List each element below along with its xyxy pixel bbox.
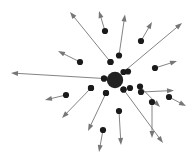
arrow-shaft-v01 — [73, 16, 110, 62]
vector-node-v08 — [138, 89, 144, 95]
arrow-shaft-v11 — [66, 88, 91, 114]
vector-node-v16 — [137, 83, 143, 89]
arrow-head-v14 — [118, 138, 123, 145]
vector-node-v03 — [116, 52, 122, 58]
vector-node-v10 — [63, 92, 69, 98]
arrow-head-v08 — [167, 88, 174, 93]
arrow-shaft-v12 — [90, 93, 106, 126]
vector-node-v05 — [138, 38, 144, 44]
vector-node-v18 — [149, 99, 155, 105]
vector-node-v17 — [166, 94, 172, 100]
hub-satellite-2 — [125, 68, 131, 74]
vector-node-v14 — [116, 108, 122, 114]
hub-layer — [107, 72, 123, 88]
arrow-head-v06 — [11, 71, 18, 76]
central-hub-node — [107, 72, 123, 88]
vector-node-v07 — [77, 59, 83, 65]
vector-node-v13 — [100, 127, 106, 133]
arrow-shaft-v03 — [119, 20, 124, 56]
arrow-head-v18 — [150, 131, 155, 138]
hub-satellite-0 — [101, 75, 107, 81]
arrow-head-v10 — [45, 96, 52, 101]
arrow-head-layer — [11, 11, 186, 152]
arrow-head-v12 — [88, 124, 93, 131]
hub-satellite-3 — [127, 85, 133, 91]
vector-node-v09 — [152, 65, 158, 71]
arrow-head-v13 — [98, 145, 103, 152]
arrow-shaft-v04 — [124, 27, 178, 72]
arrow-head-v17 — [179, 101, 186, 106]
arrow-head-v05 — [146, 22, 152, 29]
vector-node-v02 — [102, 28, 108, 34]
hub-satellite-5 — [103, 90, 109, 96]
hub-satellite-6 — [88, 85, 94, 91]
hub-satellite-4 — [120, 86, 126, 92]
arrow-head-v15 — [157, 136, 163, 143]
radial-vector-diagram — [0, 0, 196, 167]
arrow-head-v09 — [170, 61, 177, 66]
arrow-head-v07 — [58, 51, 65, 56]
hub-satellite-1 — [107, 59, 113, 65]
arrow-shaft-v06 — [16, 73, 104, 78]
arrow-shaft-v14 — [119, 111, 121, 140]
arrow-head-v03 — [122, 15, 127, 22]
diagram-svg-canvas — [0, 0, 196, 167]
arrow-head-v02 — [99, 11, 104, 18]
arrow-shaft-layer — [16, 16, 181, 146]
